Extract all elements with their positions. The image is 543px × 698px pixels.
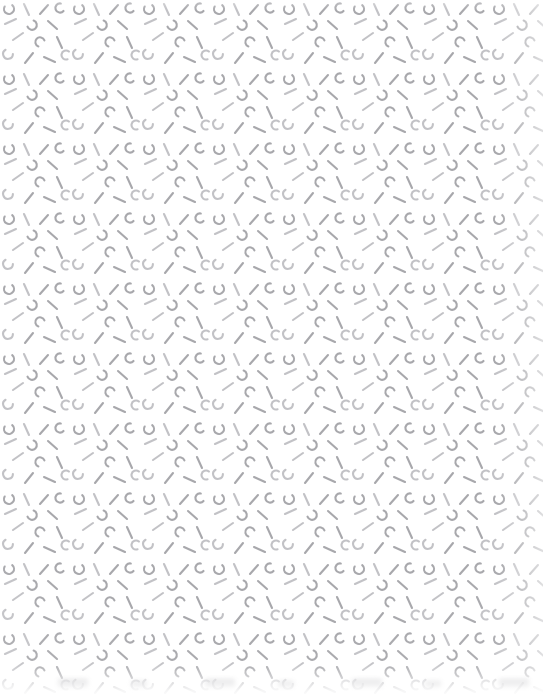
pattern-canvas	[0, 0, 543, 698]
stroke-confetti-pattern	[0, 0, 543, 698]
